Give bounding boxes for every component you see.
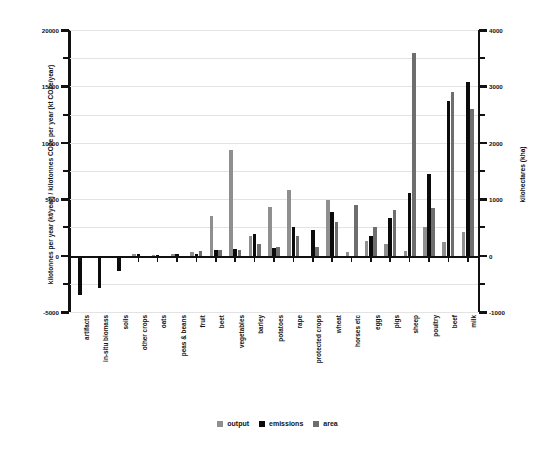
legend-label: emissions bbox=[269, 420, 303, 427]
y-axis-left-title: kilotonnes per year (kt/year) / kilotonn… bbox=[47, 0, 54, 425]
chart-figure: -500005000100001500020000 -1000010002000… bbox=[0, 0, 555, 456]
x-axis-label: in-situ biomass bbox=[102, 315, 109, 362]
bar-group bbox=[206, 30, 225, 312]
y-axis-tick bbox=[61, 255, 69, 258]
x-axis-label: sheep bbox=[412, 315, 419, 333]
x-axis-tick bbox=[254, 257, 256, 262]
y2-axis-tick-label: 4000 bbox=[489, 27, 503, 34]
legend-item-emissions[interactable]: emissions bbox=[259, 420, 303, 427]
bar-output bbox=[346, 252, 350, 255]
legend-label: area bbox=[323, 420, 337, 427]
bar-group bbox=[361, 30, 380, 312]
x-axis-label: other crops bbox=[141, 315, 148, 350]
bar-output bbox=[326, 200, 330, 256]
x-axis-tick bbox=[389, 257, 391, 262]
x-axis-label: protected crops bbox=[315, 315, 322, 363]
legend-swatch-icon bbox=[217, 421, 223, 427]
x-axis-label: potatoes bbox=[277, 315, 284, 342]
x-axis-label: beet bbox=[218, 315, 225, 328]
legend-swatch-icon bbox=[313, 421, 319, 427]
y2-axis-tick bbox=[479, 142, 487, 145]
bar-emissions bbox=[214, 250, 218, 256]
y2-axis-tick-label: 0 bbox=[489, 252, 492, 259]
legend-item-area[interactable]: area bbox=[313, 420, 337, 427]
bar-emissions bbox=[233, 249, 237, 255]
y-axis-tick bbox=[63, 170, 69, 172]
y-axis-tick bbox=[61, 142, 69, 145]
x-axis-tick bbox=[215, 257, 217, 262]
bar-group bbox=[264, 30, 283, 312]
bar-output bbox=[384, 244, 388, 255]
bar-series-container bbox=[71, 30, 478, 312]
bar-group bbox=[342, 30, 361, 312]
bar-group bbox=[381, 30, 400, 312]
x-axis-label: rape bbox=[296, 315, 303, 329]
y-axis-tick bbox=[63, 57, 69, 59]
x-axis-label: artifacts bbox=[83, 315, 90, 340]
bar-group bbox=[303, 30, 322, 312]
legend-swatch-icon bbox=[259, 421, 265, 427]
x-axis-label: milk bbox=[470, 315, 477, 328]
x-axis-labels: artifactsin-situ biomasssoilsother crops… bbox=[68, 315, 480, 410]
y-axis-tick bbox=[61, 85, 69, 88]
gridline bbox=[70, 312, 478, 313]
y-axis-tick bbox=[61, 198, 69, 201]
bar-area bbox=[393, 210, 397, 255]
chart-legend: outputemissionsarea bbox=[0, 420, 555, 427]
x-axis-tick bbox=[467, 257, 469, 262]
bar-area bbox=[238, 250, 242, 256]
legend-label: output bbox=[227, 420, 249, 427]
bar-output bbox=[210, 216, 214, 256]
bar-group bbox=[245, 30, 264, 312]
y-axis-tick-label: 0 bbox=[56, 252, 59, 259]
x-axis-label: eggs bbox=[374, 315, 381, 330]
bar-emissions bbox=[466, 82, 470, 256]
bar-group bbox=[322, 30, 341, 312]
y2-axis-tick-label: 2000 bbox=[489, 139, 503, 146]
x-axis-tick bbox=[118, 257, 120, 262]
bar-area bbox=[451, 92, 455, 256]
bar-output bbox=[249, 236, 253, 255]
y-axis-tick bbox=[63, 283, 69, 285]
bar-emissions bbox=[156, 255, 160, 256]
bar-area bbox=[431, 208, 435, 256]
y2-axis-tick bbox=[479, 255, 487, 258]
bar-emissions bbox=[272, 248, 276, 256]
bar-output bbox=[132, 254, 136, 255]
bar-area bbox=[470, 109, 474, 256]
x-axis-label: peas & beans bbox=[180, 315, 187, 356]
bar-emissions bbox=[311, 230, 315, 255]
x-axis-tick bbox=[79, 257, 81, 262]
bar-group bbox=[129, 30, 148, 312]
bar-emissions bbox=[253, 234, 257, 255]
x-axis-tick bbox=[312, 257, 314, 262]
bar-output bbox=[190, 252, 194, 255]
y-axis-tick bbox=[61, 29, 69, 32]
y2-axis-tick-label: 1000 bbox=[489, 196, 503, 203]
bar-output bbox=[229, 150, 233, 255]
bar-group bbox=[226, 30, 245, 312]
x-axis-tick bbox=[196, 257, 198, 262]
bar-area bbox=[315, 247, 319, 255]
y2-axis-tick bbox=[479, 29, 487, 32]
bar-output bbox=[462, 232, 466, 255]
legend-item-output[interactable]: output bbox=[217, 420, 249, 427]
x-axis-tick bbox=[428, 257, 430, 262]
x-axis-tick bbox=[176, 257, 178, 262]
y-axis-tick bbox=[61, 311, 69, 314]
bar-area bbox=[276, 247, 280, 255]
x-axis-label: fruit bbox=[199, 315, 206, 327]
bar-group bbox=[148, 30, 167, 312]
bar-output bbox=[152, 255, 156, 256]
bar-output bbox=[404, 251, 408, 256]
bar-group bbox=[90, 30, 109, 312]
bar-area bbox=[373, 227, 377, 255]
bar-emissions bbox=[388, 218, 392, 256]
bar-group bbox=[71, 30, 90, 312]
y-axis-tick bbox=[63, 226, 69, 228]
x-axis-tick bbox=[138, 257, 140, 262]
y2-axis-tick bbox=[479, 226, 485, 228]
bar-group bbox=[419, 30, 438, 312]
y2-axis-tick bbox=[479, 198, 487, 201]
bar-emissions bbox=[427, 174, 431, 256]
